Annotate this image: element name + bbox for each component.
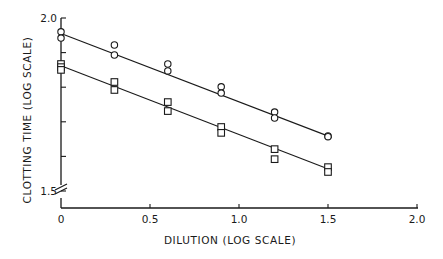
y-tick-label: 1.5 — [40, 185, 57, 197]
axes — [55, 18, 418, 208]
square-marker — [325, 169, 332, 176]
data-markers — [58, 29, 332, 176]
circle-marker — [218, 84, 224, 90]
x-tick-label: 1.5 — [320, 213, 337, 225]
square-marker — [165, 108, 172, 115]
y-axis-label: CLOTTING TIME (LOG SCALE) — [21, 37, 33, 204]
x-tick-label: 0 — [58, 213, 65, 225]
circle-marker — [58, 35, 64, 41]
square-marker — [165, 99, 172, 106]
x-tick-label: 2.0 — [409, 213, 426, 225]
circle-marker — [271, 115, 277, 121]
x-ticks: 00.51.01.52.0 — [58, 204, 426, 225]
square-marker — [218, 130, 225, 137]
fit-lines — [61, 34, 332, 171]
y-tick-label: 2.0 — [40, 12, 57, 24]
circle-marker — [111, 52, 117, 58]
squares-fit-line — [61, 66, 332, 170]
square-marker — [58, 67, 65, 74]
circle-marker — [165, 61, 171, 67]
circles-fit-line — [61, 34, 332, 138]
x-axis-label: DILUTION (LOG SCALE) — [164, 234, 296, 246]
circle-marker — [165, 68, 171, 74]
circle-marker — [58, 29, 64, 35]
square-marker — [271, 156, 278, 163]
chart: 1.52.0 00.51.01.52.0 DILUTION (LOG SCALE… — [0, 0, 443, 259]
square-marker — [111, 79, 118, 86]
x-tick-label: 1.0 — [231, 213, 248, 225]
circle-marker — [325, 133, 331, 139]
circle-marker — [218, 90, 224, 96]
square-marker — [271, 146, 278, 153]
circle-marker — [111, 42, 117, 48]
square-marker — [111, 87, 118, 94]
x-tick-label: 0.5 — [142, 213, 159, 225]
